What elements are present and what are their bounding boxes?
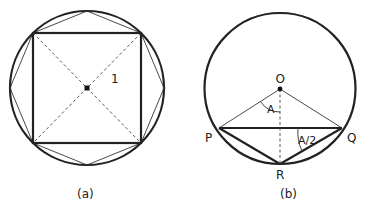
label-P: P [205, 131, 212, 145]
figure-b: O P Q R A A/2 (b) [205, 13, 357, 201]
label-Q: Q [347, 131, 356, 145]
angle-label-A: A [267, 103, 275, 116]
center-dot-O [278, 87, 283, 92]
diagram-canvas: 1 (a) O P Q R A A/2 (b) [0, 0, 365, 212]
figure-a: 1 (a) [10, 11, 164, 201]
caption-a: (a) [77, 187, 94, 201]
radius-label: 1 [111, 72, 119, 86]
angle-label-A-half: A/2 [298, 134, 316, 147]
radius-OQ [280, 89, 342, 128]
caption-b: (b) [280, 187, 297, 201]
label-R: R [276, 168, 284, 182]
center-dot-a [85, 86, 90, 91]
label-O: O [276, 72, 285, 86]
